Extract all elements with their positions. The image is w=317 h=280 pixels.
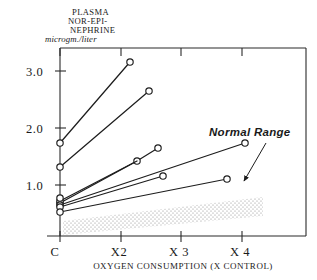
x-tick-label-x3: X 3 xyxy=(169,245,189,259)
series-subject-6 xyxy=(57,173,166,210)
data-point xyxy=(57,195,63,201)
y-axis-label: PLASMA NOR-EPI- NEPHRINE microgm./liter xyxy=(45,7,115,44)
chart-canvas: 3.0 2.0 1.0 C X2 X 3 X 4 PLASMA NOR-EPI-… xyxy=(0,0,317,280)
data-point xyxy=(155,145,161,151)
y-tick-label-3: 3.0 xyxy=(26,65,43,79)
x-tick-label-x2: X2 xyxy=(111,245,127,259)
normal-range-arrow xyxy=(244,143,266,181)
data-point xyxy=(57,209,63,215)
y-axis-label-line-4: microgm./liter xyxy=(45,34,97,44)
x-axis-title: OXYGEN CONSUMPTION (X CONTROL) xyxy=(93,261,273,271)
data-point xyxy=(57,164,63,170)
x-tick-label-x4: X 4 xyxy=(230,245,250,259)
data-point xyxy=(146,88,152,94)
normal-range-region xyxy=(63,197,263,235)
x-tick-label-c: C xyxy=(51,245,60,259)
y-tick-label-1: 1.0 xyxy=(26,179,43,193)
data-point xyxy=(160,173,166,179)
data-point xyxy=(127,59,133,65)
data-point xyxy=(57,140,63,146)
data-point xyxy=(224,176,230,182)
series-subject-5 xyxy=(57,140,248,208)
chart-figure: 3.0 2.0 1.0 C X2 X 3 X 4 PLASMA NOR-EPI-… xyxy=(0,0,317,280)
normal-range-annotation: Normal Range xyxy=(209,126,291,138)
series-subject-1 xyxy=(57,59,133,146)
y-tick-label-2: 2.0 xyxy=(26,122,43,136)
data-point xyxy=(242,140,248,146)
